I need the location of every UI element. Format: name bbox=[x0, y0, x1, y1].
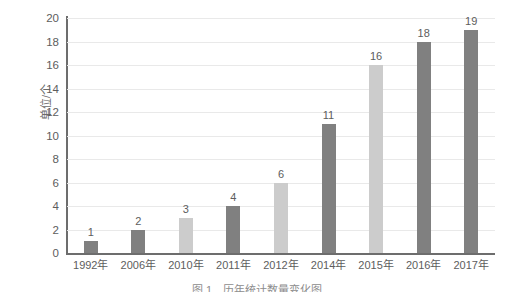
y-axis-tick-label: 20 bbox=[13, 12, 59, 24]
y-axis-tick-label: 2 bbox=[13, 224, 59, 236]
bar-chart: 单位/个 1234611161819 20181614121086420 199… bbox=[0, 0, 514, 292]
y-axis-tick-label: 4 bbox=[13, 200, 59, 212]
x-axis-tick-labels: 1992年2006年2010年2011年2012年2014年2015年2016年… bbox=[67, 258, 495, 276]
y-axis-tick-label: 14 bbox=[13, 83, 59, 95]
y-axis-tick-label: 18 bbox=[13, 36, 59, 48]
figure-caption: 图 1 历年统计数量变化图 bbox=[0, 283, 514, 292]
y-axis-tick-label: 8 bbox=[13, 153, 59, 165]
y-axis-tick-label: 10 bbox=[13, 130, 59, 142]
y-axis-tick-labels: 20181614121086420 bbox=[0, 0, 514, 292]
x-axis-tick-label: 2017年 bbox=[441, 258, 501, 272]
y-axis-tick-label: 6 bbox=[13, 177, 59, 189]
y-axis-tick-label: 12 bbox=[13, 106, 59, 118]
y-axis-tick-label: 16 bbox=[13, 59, 59, 71]
y-axis-tick-label: 0 bbox=[13, 247, 59, 259]
